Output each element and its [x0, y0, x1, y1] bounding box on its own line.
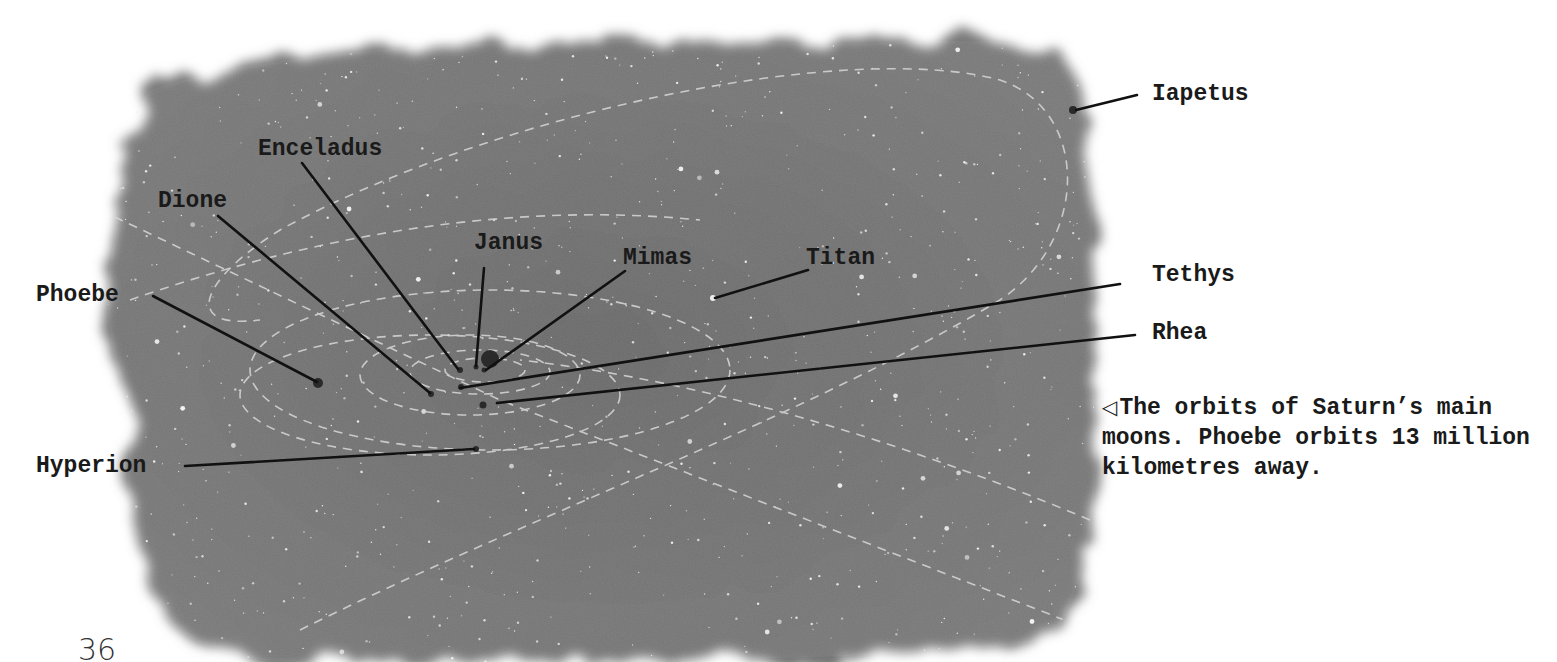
star-field-illustration — [0, 0, 1557, 662]
figure-caption: ◁The orbits of Saturn’s main moons. Phoe… — [1102, 392, 1552, 483]
caption-text: The orbits of Saturn’s main moons. Phoeb… — [1102, 395, 1530, 481]
label-tethys: Tethys — [1152, 264, 1235, 287]
saturn — [481, 350, 499, 368]
label-enceladus: Enceladus — [258, 138, 382, 161]
label-dione: Dione — [158, 190, 227, 213]
page-number: 36 — [78, 632, 116, 662]
label-phoebe: Phoebe — [36, 284, 119, 307]
label-hyperion: Hyperion — [36, 455, 146, 478]
label-janus: Janus — [474, 232, 543, 255]
label-rhea: Rhea — [1152, 322, 1207, 345]
moon-rhea — [480, 402, 487, 409]
pointer-triangle-icon: ◁ — [1102, 395, 1117, 419]
label-iapetus: Iapetus — [1152, 83, 1249, 106]
label-titan: Titan — [806, 247, 875, 270]
label-mimas: Mimas — [623, 247, 692, 270]
